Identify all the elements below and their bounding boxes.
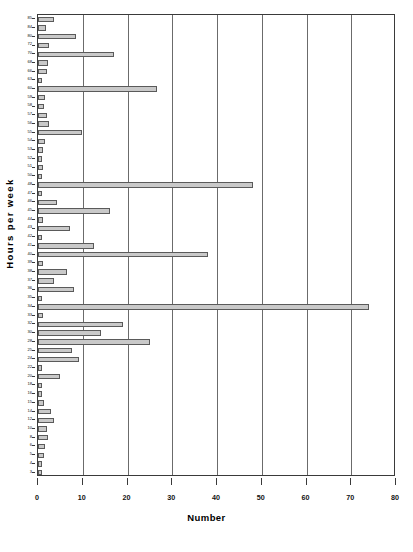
bar-row (38, 208, 394, 213)
y-tickmark-45 (32, 210, 35, 211)
bar-row (38, 25, 394, 30)
y-tickmark-28 (32, 341, 35, 342)
y-tickmark-33 (32, 315, 35, 316)
bar-row (38, 174, 394, 179)
bar-5 (38, 453, 44, 458)
y-tickmark-34 (32, 306, 35, 307)
bar-row (38, 113, 394, 118)
bar-row (38, 278, 394, 283)
y-tickmark-60 (32, 88, 35, 89)
bar-row (38, 60, 394, 65)
bar-80 (38, 34, 76, 39)
bar-68 (38, 60, 48, 65)
bar-60 (38, 86, 157, 91)
bar-row (38, 322, 394, 327)
bar-28 (38, 339, 150, 344)
x-tickmark-30 (171, 478, 172, 485)
bar-8 (38, 435, 48, 440)
bar-39 (38, 261, 43, 266)
x-tick-50: 50 (257, 494, 265, 502)
y-tickmark-39 (32, 262, 35, 263)
bar-42 (38, 235, 42, 240)
bar-row (38, 78, 394, 83)
bar-row (38, 426, 394, 431)
bar-20 (38, 374, 60, 379)
bar-46 (38, 200, 57, 205)
bar-70 (38, 52, 114, 57)
x-tickmark-20 (127, 478, 128, 485)
bar-row (38, 339, 394, 344)
bar-22 (38, 365, 42, 370)
bar-3 (38, 470, 42, 475)
bar-55 (38, 130, 82, 135)
y-tickmark-53 (32, 149, 35, 150)
bar-row (38, 261, 394, 266)
x-axis-tick-labels: 01020304050607080 (0, 478, 413, 508)
bar-row (38, 252, 394, 257)
bar-37 (38, 278, 54, 283)
y-tickmark-25 (32, 350, 35, 351)
bar-row (38, 435, 394, 440)
y-tickmark-66 (32, 71, 35, 72)
y-tickmark-10 (32, 428, 35, 429)
y-tickmark-16 (32, 393, 35, 394)
bar-row (38, 330, 394, 335)
bar-row (38, 374, 394, 379)
y-tickmark-36 (32, 289, 35, 290)
bar-row (38, 269, 394, 274)
y-tickmark-4 (32, 463, 35, 464)
y-tickmark-22 (32, 367, 35, 368)
y-tickmark-35 (32, 297, 35, 298)
bar-47 (38, 191, 42, 196)
y-tickmark-18 (32, 384, 35, 385)
bar-54 (38, 139, 45, 144)
bar-row (38, 409, 394, 414)
y-tickmark-44 (32, 219, 35, 220)
y-tickmark-48 (32, 184, 35, 185)
bar-row (38, 200, 394, 205)
y-tickmark-40 (32, 254, 35, 255)
y-tickmark-68 (32, 62, 35, 63)
bar-84 (38, 25, 46, 30)
bar-row (38, 86, 394, 91)
bar-35 (38, 296, 42, 301)
y-tickmark-50 (32, 175, 35, 176)
bar-row (38, 226, 394, 231)
bar-48 (38, 182, 253, 187)
bar-row (38, 165, 394, 170)
bar-row (38, 365, 394, 370)
x-tick-10: 10 (78, 494, 86, 502)
bar-series (38, 15, 394, 475)
bar-row (38, 400, 394, 405)
bar-row (38, 17, 394, 22)
bar-32 (38, 322, 123, 327)
bar-row (38, 313, 394, 318)
bar-15 (38, 400, 44, 405)
y-tickmark-55 (32, 132, 35, 133)
bar-36 (38, 287, 74, 292)
x-tickmark-10 (82, 478, 83, 485)
y-tickmark-42 (32, 236, 35, 237)
bar-row (38, 235, 394, 240)
bar-row (38, 191, 394, 196)
bar-72 (38, 43, 49, 48)
y-tickmark-72 (32, 45, 35, 46)
bar-row (38, 461, 394, 466)
bar-85 (38, 17, 54, 22)
bar-row (38, 287, 394, 292)
y-tickmark-8 (32, 437, 35, 438)
bar-6 (38, 444, 45, 449)
bar-row (38, 69, 394, 74)
y-tickmark-70 (32, 53, 35, 54)
bar-63 (38, 78, 42, 83)
bar-52 (38, 156, 42, 161)
y-tickmark-56 (32, 123, 35, 124)
bar-row (38, 470, 394, 475)
bar-16 (38, 391, 42, 396)
x-tick-0: 0 (35, 494, 39, 502)
y-tickmark-32 (32, 323, 35, 324)
x-tickmark-80 (395, 478, 396, 485)
bar-57 (38, 113, 47, 118)
bar-45 (38, 208, 110, 213)
y-tickmark-47 (32, 193, 35, 194)
